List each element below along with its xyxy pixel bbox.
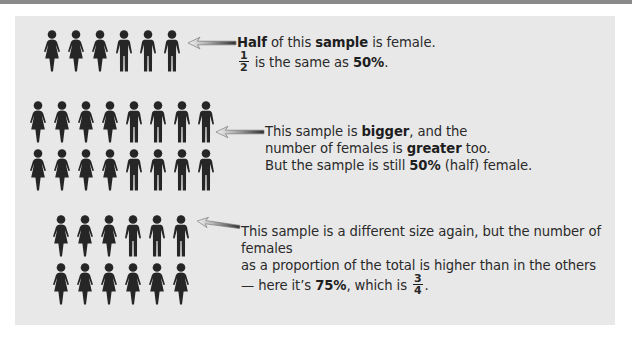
figure-row	[52, 263, 190, 305]
figure-row	[29, 101, 215, 143]
female-figure-icon	[101, 149, 119, 191]
left-arrow-icon	[187, 36, 237, 50]
example-note: Half of this sample is female. 12 is the…	[237, 34, 436, 74]
sample-figures	[52, 215, 190, 305]
example-half-small: Half of this sample is female. 12 is the…	[43, 30, 436, 74]
left-arrow-icon	[195, 214, 241, 234]
figure-row	[43, 30, 181, 72]
male-figure-icon	[149, 101, 167, 143]
male-figure-icon	[173, 149, 191, 191]
female-figure-icon	[148, 263, 166, 305]
fraction-three-quarters: 34	[413, 273, 423, 296]
male-figure-icon	[197, 149, 215, 191]
note-line: — here it’s 75%, which is 34.	[241, 274, 615, 297]
note-line: number of females is greater too.	[265, 140, 532, 157]
note-line: This sample is a different size again, b…	[241, 223, 615, 257]
female-figure-icon	[100, 215, 118, 257]
female-figure-icon	[91, 30, 109, 72]
female-figure-icon	[53, 149, 71, 191]
male-figure-icon	[125, 101, 143, 143]
note-line: 12 is the same as 50%.	[237, 51, 436, 74]
female-figure-icon	[29, 149, 47, 191]
example-note: This sample is bigger, and the number of…	[265, 123, 532, 174]
female-figure-icon	[76, 263, 94, 305]
sample-proportion-panel: Half of this sample is female. 12 is the…	[15, 16, 615, 325]
female-figure-icon	[77, 101, 95, 143]
female-figure-icon	[67, 30, 85, 72]
note-line: But the sample is still 50% (half) femal…	[265, 157, 532, 174]
female-figure-icon	[43, 30, 61, 72]
female-figure-icon	[101, 101, 119, 143]
example-half-bigger: This sample is bigger, and the number of…	[29, 101, 532, 191]
left-arrow-icon	[215, 125, 265, 139]
female-figure-icon	[53, 101, 71, 143]
male-figure-icon	[173, 101, 191, 143]
fraction-one-half: 12	[239, 50, 249, 73]
male-figure-icon	[163, 30, 181, 72]
sample-figures	[43, 30, 181, 72]
figure-row	[52, 215, 190, 257]
male-figure-icon	[124, 215, 142, 257]
figure-row	[29, 149, 215, 191]
example-three-quarters: This sample is a different size again, b…	[52, 215, 615, 305]
note-line: as a proportion of the total is higher t…	[241, 257, 615, 274]
male-figure-icon	[125, 149, 143, 191]
top-border-bar	[0, 0, 632, 4]
male-figure-icon	[139, 30, 157, 72]
female-figure-icon	[172, 263, 190, 305]
male-figure-icon	[115, 30, 133, 72]
female-figure-icon	[100, 263, 118, 305]
female-figure-icon	[52, 215, 70, 257]
female-figure-icon	[76, 215, 94, 257]
male-figure-icon	[148, 215, 166, 257]
female-figure-icon	[52, 263, 70, 305]
male-figure-icon	[197, 101, 215, 143]
note-line: This sample is bigger, and the	[265, 123, 532, 140]
female-figure-icon	[124, 263, 142, 305]
sample-figures	[29, 101, 215, 191]
male-figure-icon	[149, 149, 167, 191]
example-note: This sample is a different size again, b…	[241, 223, 615, 297]
female-figure-icon	[77, 149, 95, 191]
male-figure-icon	[172, 215, 190, 257]
note-line: Half of this sample is female.	[237, 34, 436, 51]
female-figure-icon	[29, 101, 47, 143]
